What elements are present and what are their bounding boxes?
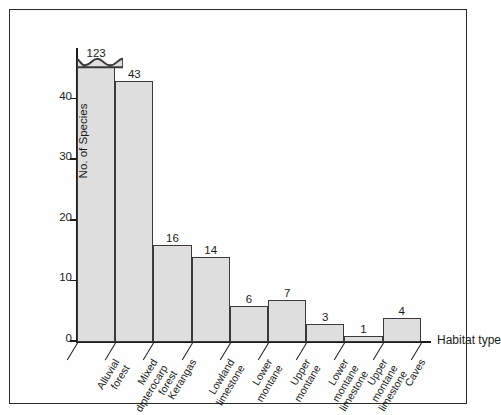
bar-6: 7 (268, 300, 306, 342)
bar-value-label-6: 7 (284, 287, 290, 299)
bar-3: 16 (153, 245, 191, 342)
y-tick-label: 10 (59, 272, 72, 284)
bar-9: 4 (383, 318, 421, 342)
bar-4: 14 (192, 257, 230, 342)
category-tick-leader (67, 343, 78, 361)
figure-frame: 010203040 12343161467314 No. of Species … (9, 9, 467, 404)
bar-value-label-9: 4 (398, 305, 404, 317)
category-label-8: Uppermontanelimestone (356, 357, 409, 413)
category-label-6: Uppermontane (282, 357, 323, 404)
category-label-line: Caves (402, 357, 427, 388)
bar-value-label-4: 14 (204, 244, 217, 256)
bar-value-label-7: 3 (322, 311, 328, 323)
category-axis-labels: AlluvialforestMixeddipterocarpforestKera… (76, 343, 434, 415)
bar-value-label-2: 43 (128, 68, 141, 80)
bar-value-label-3: 16 (166, 232, 179, 244)
bar-2: 43 (115, 81, 153, 342)
bar-value-label-1: 123 (87, 47, 106, 59)
bar-value-label-8: 1 (360, 323, 366, 335)
bar-5: 6 (230, 306, 268, 342)
category-label-5: Lowermontane (244, 357, 285, 404)
category-label-1: Alluvialforest (95, 357, 132, 397)
y-axis-title: No. of Species (77, 86, 89, 196)
y-tick-label: 20 (59, 212, 72, 224)
category-label-4: Lowlandlimestone (204, 357, 247, 407)
y-tick-label: 40 (59, 91, 72, 103)
bar-7: 3 (306, 324, 344, 342)
category-label-9: Caves (402, 357, 427, 388)
plot-area: 010203040 12343161467314 No. of Species … (76, 30, 426, 342)
y-tick-label: 0 (66, 333, 72, 345)
x-axis-title: Habitat type (437, 333, 501, 347)
bar-8: 1 (344, 336, 382, 342)
bar-series: 12343161467314 (77, 30, 426, 342)
bar-value-label-5: 6 (246, 293, 252, 305)
y-tick-label: 30 (59, 151, 72, 163)
